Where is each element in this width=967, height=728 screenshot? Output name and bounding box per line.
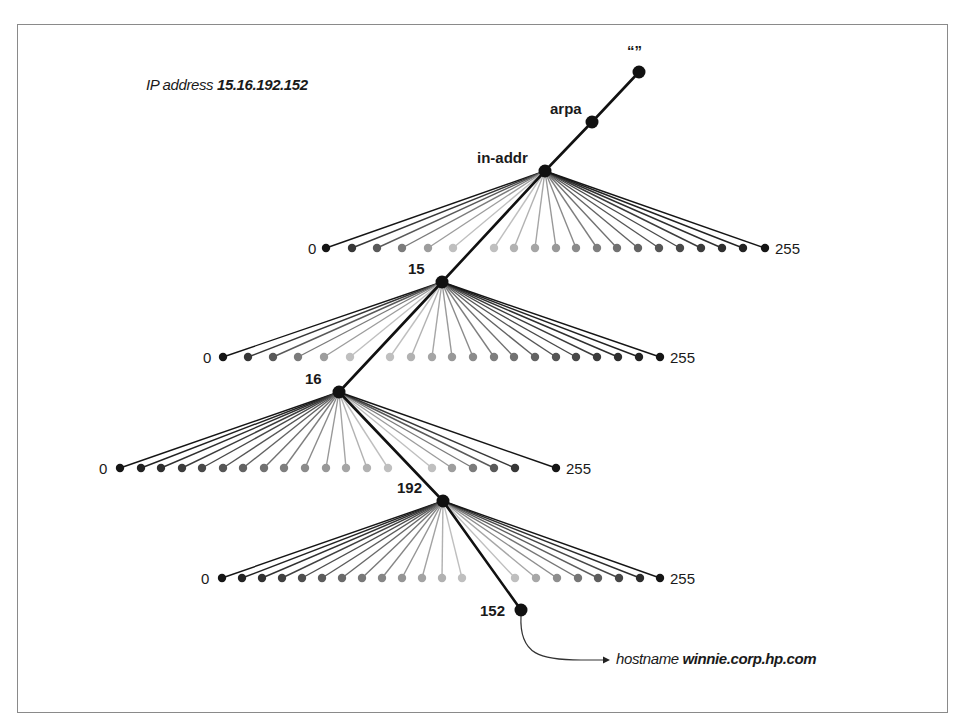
- leaf-node: [363, 464, 371, 472]
- leaf-node: [116, 464, 124, 472]
- leaf-node: [697, 244, 705, 252]
- fan-edge: [326, 171, 545, 248]
- fan-min-label: 0: [201, 570, 209, 587]
- fan-edge: [428, 171, 545, 248]
- leaf-node: [386, 353, 394, 361]
- fan-edge: [352, 171, 545, 248]
- result-arrow: [521, 616, 604, 660]
- leaf-node: [552, 244, 560, 252]
- leaf-node: [532, 574, 540, 582]
- leaf-node: [574, 574, 582, 582]
- fan-min-label: 0: [99, 460, 107, 477]
- leaf-node: [384, 464, 392, 472]
- leaf-node: [449, 244, 457, 252]
- fan-edge: [545, 171, 556, 248]
- chain-node-15: [436, 276, 449, 289]
- fan-edge: [223, 282, 442, 357]
- leaf-node: [613, 244, 621, 252]
- leaf-node: [593, 244, 601, 252]
- leaf-node: [614, 353, 622, 361]
- fan-edge: [442, 282, 576, 357]
- fan-edge: [339, 392, 473, 468]
- fan-edge: [248, 282, 442, 357]
- leaf-node: [398, 574, 406, 582]
- leaf-node: [490, 353, 498, 361]
- leaf-node: [428, 464, 436, 472]
- hostname-value: winnie.corp.hp.com: [682, 650, 816, 667]
- leaf-node: [157, 464, 165, 472]
- chain-node-label: 15: [408, 260, 425, 277]
- fan-max-label: 255: [566, 460, 591, 477]
- leaf-node: [739, 244, 747, 252]
- leaf-node: [761, 244, 769, 252]
- chain-edge: [339, 392, 443, 501]
- leaf-node: [448, 464, 456, 472]
- chain-node-arpa: [586, 116, 599, 129]
- leaf-node: [531, 244, 539, 252]
- leaf-node: [676, 244, 684, 252]
- leaf-node: [634, 244, 642, 252]
- fan-edge: [545, 171, 765, 248]
- fan-edge: [298, 282, 442, 357]
- leaf-node: [346, 353, 354, 361]
- fan-max-label: 255: [670, 570, 695, 587]
- leaf-node: [438, 574, 446, 582]
- leaf-node: [322, 244, 330, 252]
- fan-edge: [545, 171, 680, 248]
- arrowhead-icon: [603, 657, 610, 664]
- fan-edge: [442, 282, 514, 357]
- fan-edge: [443, 501, 578, 578]
- leaf-node: [338, 574, 346, 582]
- leaf-node: [137, 464, 145, 472]
- leaf-node: [239, 464, 247, 472]
- leaf-node: [218, 574, 226, 582]
- leaf-node: [552, 353, 560, 361]
- fan-192: 0255: [201, 501, 695, 587]
- chain-node-152: [515, 604, 528, 617]
- leaf-node: [258, 574, 266, 582]
- fan-edge: [443, 501, 515, 578]
- fan-edge: [282, 501, 443, 578]
- hostname-prefix: hostname: [616, 650, 679, 667]
- leaf-node: [178, 464, 186, 472]
- leaf-node: [428, 353, 436, 361]
- leaf-node: [635, 353, 643, 361]
- leaf-node: [322, 464, 330, 472]
- leaf-node: [655, 244, 663, 252]
- chain-node-root: [633, 66, 646, 79]
- leaf-node: [510, 353, 518, 361]
- fan-edge: [442, 282, 660, 357]
- chain-node-16: [333, 386, 346, 399]
- leaf-node: [490, 464, 498, 472]
- chain-node-label: in-addr: [477, 149, 528, 166]
- fan-edge: [453, 171, 545, 248]
- leaf-node: [636, 574, 644, 582]
- fan-min-label: 0: [308, 240, 316, 257]
- leaf-node: [469, 353, 477, 361]
- result-hostname-label: hostname winnie.corp.hp.com: [616, 650, 816, 667]
- leaf-node: [511, 574, 519, 582]
- chain-node-label: arpa: [550, 100, 582, 117]
- chain-node-in-addr: [539, 165, 552, 178]
- fan-15: 0255: [203, 282, 695, 366]
- leaf-node: [260, 464, 268, 472]
- leaf-node: [511, 464, 519, 472]
- fan-16: 0255: [99, 392, 591, 477]
- leaf-node: [553, 574, 561, 582]
- chain-node-label: 16: [305, 370, 322, 387]
- leaf-node: [469, 464, 477, 472]
- leaf-node: [656, 353, 664, 361]
- chain-node-label: 152: [480, 602, 505, 619]
- fan-edge: [442, 282, 639, 357]
- fan-max-label: 255: [775, 240, 800, 257]
- leaf-node: [490, 244, 498, 252]
- leaf-node: [572, 353, 580, 361]
- fan-edge: [350, 282, 442, 357]
- fan-edge: [339, 392, 515, 468]
- fan-edge: [222, 501, 443, 578]
- leaf-node: [298, 574, 306, 582]
- leaf-node: [320, 353, 328, 361]
- leaf-node: [510, 244, 518, 252]
- fan-edge: [202, 392, 339, 468]
- leaf-node: [458, 574, 466, 582]
